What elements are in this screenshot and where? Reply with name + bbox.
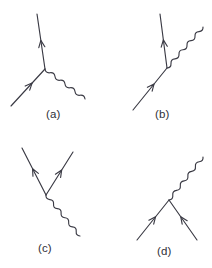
- fermion-line-a-incoming-fermion: [11, 69, 45, 106]
- feynman-panel-d: [137, 157, 203, 240]
- photon-line-b: [167, 27, 203, 68]
- photon-line-d: [169, 157, 203, 200]
- fermion-line-b-incoming-fermion: [133, 68, 167, 110]
- fermion-line-c-outgoing-fermion-left: [22, 148, 46, 195]
- feynman-panel-b: [133, 14, 203, 110]
- feynman-panel-a: [11, 14, 85, 106]
- fermion-line-c-outgoing-fermion-right: [46, 152, 73, 195]
- diagram-canvas: [0, 0, 212, 268]
- arrow-c-outgoing-fermion-right: [55, 170, 61, 177]
- feynman-panel-c: [22, 148, 80, 236]
- fermion-line-d-incoming-fermion-left: [137, 200, 169, 240]
- panel-label-a: (a): [46, 108, 60, 120]
- fermion-line-d-incoming-fermion-right: [169, 200, 197, 240]
- panel-label-b: (b): [155, 108, 169, 120]
- photon-line-c: [46, 195, 80, 236]
- panel-label-c: (c): [38, 242, 52, 254]
- feynman-diagram-figure: (a) (b) (c) (d): [0, 0, 212, 268]
- photon-line-a: [45, 69, 85, 99]
- panel-label-d: (d): [157, 245, 171, 257]
